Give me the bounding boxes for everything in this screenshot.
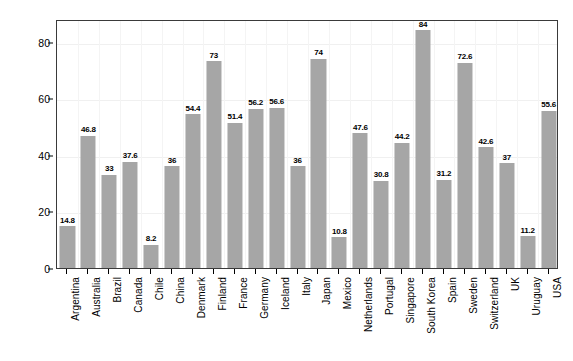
bars-container: 14.846.83337.68.23654.47351.456.256.6367… — [57, 21, 557, 268]
bar[interactable] — [332, 237, 347, 268]
bar-group: 54.4 — [183, 21, 204, 268]
x-axis-category-label: France — [238, 277, 249, 309]
bar[interactable] — [206, 61, 221, 268]
bar-group: 10.8 — [329, 21, 350, 268]
bar-group: 42.6 — [475, 21, 496, 268]
x-tick-mark — [422, 269, 423, 274]
bar[interactable] — [353, 133, 368, 268]
bar[interactable] — [520, 236, 535, 268]
bar-chart: Mean of score 020406080 14.846.83337.68.… — [0, 0, 573, 361]
x-tick-mark — [464, 269, 465, 274]
bar-group: 74 — [308, 21, 329, 268]
bar[interactable] — [457, 63, 472, 268]
x-axis-category-label: Netherlands — [363, 277, 374, 332]
bar-value-label: 37 — [502, 153, 511, 162]
x-tick-mark — [338, 269, 339, 274]
bar-value-label: 56.2 — [248, 98, 263, 107]
x-axis-category-label: Finland — [217, 277, 228, 311]
bar-group: 36 — [162, 21, 183, 268]
bar-value-label: 55.6 — [541, 100, 556, 109]
bar-value-label: 51.4 — [227, 112, 242, 121]
x-axis-category-label: Spain — [447, 277, 458, 303]
bar-value-label: 84 — [419, 20, 428, 29]
x-tick-mark — [108, 269, 109, 274]
x-axis-category-label: Japan — [321, 277, 332, 305]
bar[interactable] — [185, 114, 200, 268]
x-tick-mark — [150, 269, 151, 274]
y-tick-mark — [48, 212, 53, 213]
y-tick-label: 80 — [24, 37, 50, 49]
bar-group: 56.2 — [245, 21, 266, 268]
bar[interactable] — [165, 166, 180, 268]
bar[interactable] — [541, 111, 556, 268]
x-axis-labels: ArgentinaAustraliaBrazilCanadaChileChina… — [56, 269, 558, 361]
bar-group: 14.8 — [57, 21, 78, 268]
bar[interactable] — [60, 226, 75, 268]
bar-group: 51.4 — [224, 21, 245, 268]
x-axis-category-label: Argentina — [70, 277, 81, 321]
bar[interactable] — [499, 163, 514, 268]
bar-value-label: 73 — [210, 51, 219, 60]
bar-value-label: 72.6 — [457, 52, 472, 61]
x-axis-category-label: China — [175, 277, 186, 304]
bar-group: 55.6 — [538, 21, 559, 268]
x-tick-mark — [401, 269, 402, 274]
x-tick-mark — [506, 269, 507, 274]
bar-group: 30.8 — [371, 21, 392, 268]
x-tick-mark — [66, 269, 67, 274]
bar[interactable] — [374, 181, 389, 268]
bar-group: 36 — [287, 21, 308, 268]
bar[interactable] — [311, 59, 326, 268]
bar-value-label: 54.4 — [186, 104, 201, 113]
bar[interactable] — [290, 166, 305, 268]
bar[interactable] — [227, 123, 242, 268]
x-tick-mark — [171, 269, 172, 274]
bar-group: 11.2 — [517, 21, 538, 268]
bar-group: 8.2 — [141, 21, 162, 268]
x-tick-mark — [234, 269, 235, 274]
bar[interactable] — [395, 143, 410, 268]
bar-group: 31.2 — [434, 21, 455, 268]
bar-group: 46.8 — [78, 21, 99, 268]
bar-group: 37 — [496, 21, 517, 268]
x-axis-category-label: Portugal — [384, 277, 395, 315]
bar-group: 72.6 — [454, 21, 475, 268]
bar-value-label: 37.6 — [123, 151, 138, 160]
x-tick-mark — [192, 269, 193, 274]
bar[interactable] — [269, 108, 284, 268]
x-axis-category-label: Iceland — [280, 277, 291, 310]
y-axis-ticks: 020406080 — [18, 0, 50, 361]
y-tick-label: 60 — [24, 93, 50, 105]
x-tick-mark — [255, 269, 256, 274]
y-tick-mark — [48, 42, 53, 43]
bar-value-label: 11.2 — [520, 226, 534, 235]
bar-group: 84 — [413, 21, 434, 268]
x-axis-category-label: Chile — [154, 277, 165, 300]
bar[interactable] — [416, 30, 431, 268]
bar[interactable] — [478, 147, 493, 268]
bar-group: 37.6 — [120, 21, 141, 268]
bar-value-label: 74 — [314, 48, 323, 57]
bar[interactable] — [102, 175, 117, 268]
x-axis-category-label: Brazil — [112, 277, 123, 303]
plot-area: 14.846.83337.68.23654.47351.456.256.6367… — [56, 20, 558, 269]
bar-value-label: 36 — [293, 156, 302, 165]
bar-value-label: 56.6 — [269, 97, 284, 106]
bar[interactable] — [248, 109, 263, 268]
bar[interactable] — [144, 245, 159, 268]
x-tick-mark — [276, 269, 277, 274]
bar-value-label: 47.6 — [353, 123, 368, 132]
x-axis-category-label: Denmark — [196, 277, 207, 318]
y-tick-label: 20 — [24, 206, 50, 218]
bar[interactable] — [123, 162, 138, 268]
bar[interactable] — [81, 136, 96, 268]
bar-value-label: 31.2 — [437, 169, 452, 178]
bar-group: 33 — [99, 21, 120, 268]
x-tick-mark — [87, 269, 88, 274]
x-tick-mark — [213, 269, 214, 274]
x-tick-mark — [129, 269, 130, 274]
x-axis-category-label: Italy — [301, 277, 312, 296]
bar[interactable] — [436, 180, 451, 268]
x-tick-mark — [485, 269, 486, 274]
x-axis-category-label: South Korea — [426, 277, 437, 334]
